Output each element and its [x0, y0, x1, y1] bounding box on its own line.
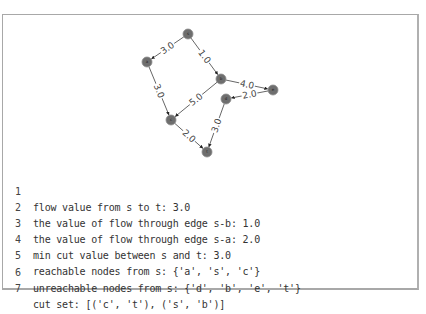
- output-line: 6 unreachable nodes from s: {'d', 'b', '…: [0, 249, 24, 265]
- output-line: 7 cut set: [('c', 't'), ('s', 'b')]: [0, 265, 24, 281]
- edge-label-group: 2.0: [241, 88, 259, 101]
- edge-capacity-label: 2.0: [242, 88, 258, 101]
- line-text: min cut value between s and t: 3.0: [33, 248, 231, 264]
- line-text: the value of flow through edge s-b: 1.0: [33, 216, 260, 232]
- node-label: c: [170, 117, 172, 122]
- output-line: 1 flow value from s to t: 3.0: [0, 168, 24, 184]
- edge-label-group: 3.0: [209, 116, 224, 134]
- node-label: b: [220, 76, 223, 81]
- output-line: 3 the value of flow through edge s-a: 2.…: [0, 200, 24, 216]
- node-label: d: [225, 96, 228, 101]
- flow-network-graph: 3.01.03.05.04.02.02.03.0 sabcdet: [0, 0, 426, 165]
- edge-label-group: 1.0: [196, 47, 214, 66]
- output-line: 2 the value of flow through edge s-b: 1.…: [0, 184, 24, 200]
- edge-label-group: 5.0: [187, 91, 206, 109]
- output-line: 4 min cut value between s and t: 3.0: [0, 216, 24, 232]
- edge-capacity-label: 5.0: [187, 91, 205, 108]
- line-text: unreachable nodes from s: {'d', 'b', 'e'…: [33, 281, 301, 297]
- edge-capacity-label: 1.0: [196, 48, 213, 66]
- line-text: flow value from s to t: 3.0: [33, 200, 190, 216]
- edge-label-group: 3.0: [151, 82, 166, 101]
- edge-label-group: 3.0: [158, 39, 177, 56]
- line-text: reachable nodes from s: {'a', 's', 'c'}: [33, 264, 260, 280]
- node-label: s: [187, 31, 189, 36]
- output-line: 5 reachable nodes from s: {'a', 's', 'c'…: [0, 232, 24, 248]
- edge-capacity-label: 3.0: [159, 40, 177, 56]
- line-text: cut set: [('c', 't'), ('s', 'b')]: [33, 297, 225, 313]
- line-number: 7: [15, 281, 25, 297]
- line-text: the value of flow through edge s-a: 2.0: [33, 232, 260, 248]
